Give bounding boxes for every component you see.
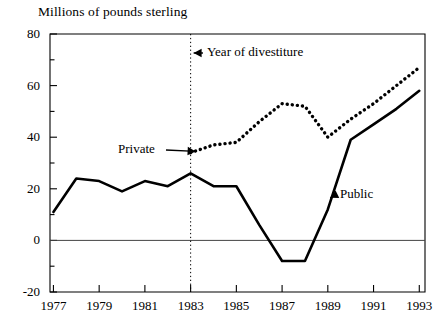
series-line-public — [53, 91, 419, 261]
y-tick-label: 80 — [6, 26, 40, 42]
annotation-year-of-divestiture: Year of divestiture — [207, 44, 303, 60]
y-tick-label: 40 — [6, 129, 40, 145]
annotation-arrows — [166, 49, 339, 198]
x-tick-label: 1989 — [305, 298, 351, 314]
axis-ticks — [50, 34, 419, 292]
x-tick-label: 1991 — [351, 298, 397, 314]
x-tick-label: 1977 — [30, 298, 76, 314]
x-tick-label: 1983 — [168, 298, 214, 314]
y-tick-label: 20 — [6, 181, 40, 197]
x-tick-label: 1993 — [396, 298, 442, 314]
series-line-private — [191, 68, 420, 153]
y-tick-label: 60 — [6, 78, 40, 94]
x-tick-label: 1987 — [259, 298, 305, 314]
annotation-public-label: Public — [340, 186, 373, 202]
data-series — [53, 68, 419, 262]
annotation-private-label: Private — [118, 141, 155, 157]
y-tick-label: 0 — [6, 232, 40, 248]
x-tick-label: 1981 — [122, 298, 168, 314]
chart-container: Millions of pounds sterling 806040200-20… — [0, 0, 444, 320]
x-tick-label: 1979 — [76, 298, 122, 314]
x-tick-label: 1985 — [213, 298, 259, 314]
plot-frame — [50, 34, 425, 292]
